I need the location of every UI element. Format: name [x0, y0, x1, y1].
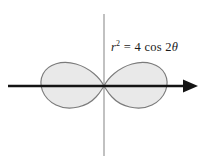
equation-function: cos: [144, 40, 161, 54]
x-axis-arrow-icon: [183, 80, 198, 93]
equation-coefficient: 4: [135, 40, 141, 54]
equation-equals: =: [124, 40, 131, 54]
plot-canvas: [0, 0, 206, 164]
polar-equation-label: r2=4cos2θ: [111, 40, 178, 54]
equation-angle-symbol: θ: [172, 40, 178, 54]
polar-plot-figure: r2=4cos2θ: [0, 0, 206, 164]
equation-exponent: 2: [116, 39, 120, 48]
